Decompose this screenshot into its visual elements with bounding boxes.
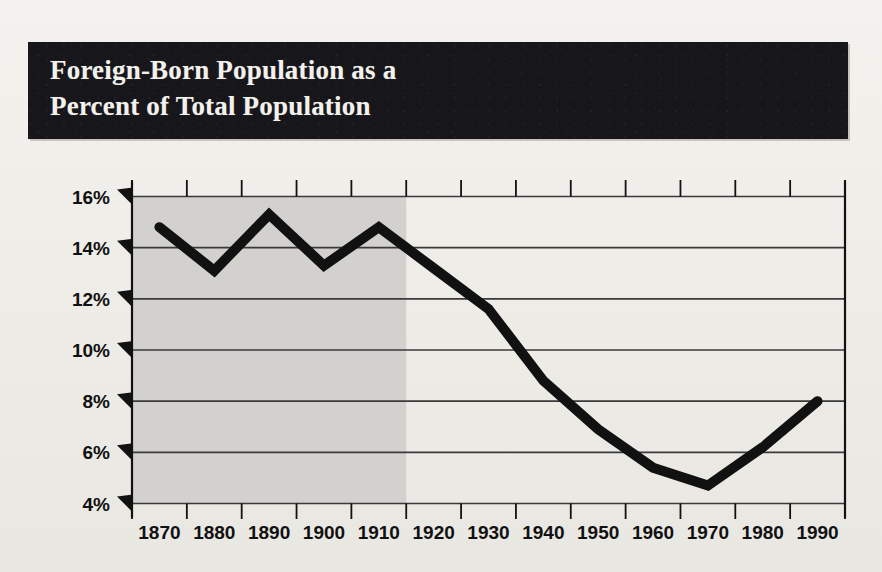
y-axis-tick-label: 12% — [72, 289, 110, 310]
x-axis-tick-label: 1950 — [577, 522, 619, 543]
x-axis-tick-label: 1900 — [303, 522, 345, 543]
x-axis-tick-label: 1990 — [796, 522, 838, 543]
x-axis-tick-label: 1910 — [358, 522, 400, 543]
x-axis-tick-label: 1970 — [687, 522, 729, 543]
line-chart-svg: 16%14%12%10%8%6%4% 187018801890190019101… — [0, 0, 882, 572]
x-axis-tick-label: 1920 — [413, 522, 455, 543]
x-axis-labels: 1870188018901900191019201930194019501960… — [138, 522, 838, 543]
y-axis-tick-label: 8% — [83, 391, 111, 412]
page-background: Foreign-Born Population as a Percent of … — [0, 0, 882, 572]
y-axis-ticks — [117, 188, 133, 513]
x-axis-tick-label: 1870 — [138, 522, 180, 543]
y-axis-tick-label: 14% — [72, 238, 110, 259]
x-axis-tick-label: 1940 — [522, 522, 564, 543]
x-axis-tick-label: 1960 — [632, 522, 674, 543]
chart-plot-area: 16%14%12%10%8%6%4% 187018801890190019101… — [0, 0, 882, 572]
y-axis-tick-label: 6% — [83, 442, 111, 463]
x-axis-tick-label: 1980 — [742, 522, 784, 543]
y-axis-tick-label: 4% — [83, 494, 111, 515]
x-axis-tick-label: 1880 — [193, 522, 235, 543]
y-axis-labels: 16%14%12%10%8%6%4% — [72, 187, 110, 515]
y-axis-tick-label: 16% — [72, 187, 110, 208]
x-axis-tick-label: 1890 — [248, 522, 290, 543]
y-axis-tick-label: 10% — [72, 340, 110, 361]
x-axis-tick-label: 1930 — [467, 522, 509, 543]
